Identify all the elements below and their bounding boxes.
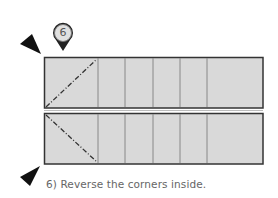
top-panel xyxy=(45,58,264,109)
triangle-pointer-icon xyxy=(20,34,41,54)
origami-diagram xyxy=(0,0,278,198)
step-caption: 6) Reverse the corners inside. xyxy=(46,178,206,191)
bottom-panel xyxy=(45,114,264,165)
triangle-pointer-icon xyxy=(20,166,40,186)
step-number: 6 xyxy=(56,25,70,40)
